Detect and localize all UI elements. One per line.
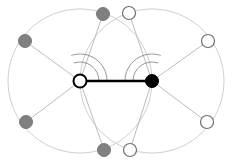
node-gray-lower-left[interactable] (20, 116, 33, 129)
node-white-bottom[interactable] (124, 144, 137, 157)
graph-figure (0, 0, 235, 163)
figure-canvas (0, 0, 235, 163)
node-gray-upper-left[interactable] (19, 35, 32, 48)
node-gray-bottom[interactable] (98, 144, 111, 157)
node-white-upper-right[interactable] (202, 35, 215, 48)
node-gray-top[interactable] (97, 8, 110, 21)
node-hub-right[interactable] (146, 75, 159, 88)
node-white-lower-right[interactable] (201, 116, 214, 129)
node-hub-left[interactable] (74, 75, 87, 88)
node-white-top[interactable] (123, 7, 136, 20)
